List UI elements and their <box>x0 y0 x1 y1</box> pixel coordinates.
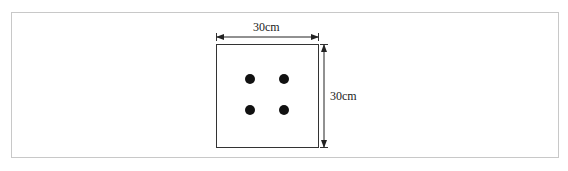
rebar-dot <box>245 74 255 84</box>
width-dimension-arrow <box>217 33 319 41</box>
rebar-dot <box>279 74 289 84</box>
width-label: 30cm <box>253 21 280 33</box>
height-label: 30cm <box>330 90 357 102</box>
diagram-canvas <box>0 0 568 171</box>
height-dimension-arrow <box>320 45 328 148</box>
square-section <box>217 45 319 148</box>
rebar-dot <box>245 105 255 115</box>
rebar-dot <box>279 105 289 115</box>
